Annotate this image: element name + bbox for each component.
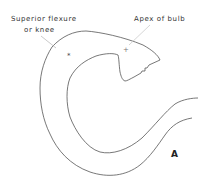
label-apex-of-bulb: Apex of bulb bbox=[134, 15, 185, 24]
apex-marker-icon: + bbox=[123, 46, 129, 54]
superior-marker-icon: * bbox=[67, 52, 71, 60]
label-or-knee: or knee bbox=[24, 26, 55, 35]
panel-label: A bbox=[171, 150, 179, 159]
lower-contour bbox=[40, 47, 192, 175]
label-superior-flexure: Superior flexure bbox=[11, 15, 77, 24]
apex-leader-line bbox=[129, 25, 150, 45]
superior-leader-line bbox=[41, 36, 56, 48]
